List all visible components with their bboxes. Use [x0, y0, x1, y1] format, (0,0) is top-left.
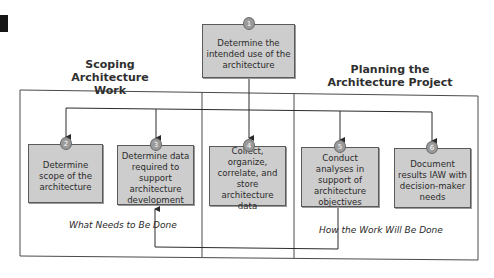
step-3-label: Determine data required to support archi… [121, 151, 190, 206]
how-the-work-will-be-done-label: How the Work Will Be Done [319, 225, 443, 235]
step-3-badge: 3 [150, 138, 162, 151]
step-5-box: Conduct analyses in support of architect… [301, 147, 379, 207]
step-2-badge: 2 [60, 137, 72, 150]
step-4-box: Collect, organize, correlate, and store … [209, 146, 286, 206]
section-title-planning: Planning the Architecture Project [320, 63, 460, 89]
step-5-label: Conduct analyses in support of architect… [305, 153, 375, 208]
step-2-label: Determine scope of the architecture [32, 160, 99, 193]
step-1-badge: 1 [243, 17, 255, 30]
section-title-line: Planning the [320, 63, 460, 76]
section-title-line: Scoping [55, 58, 165, 71]
step-1-box: Determine the intended use of the archit… [202, 24, 295, 78]
section-title-line: Architecture Project [320, 76, 460, 89]
section-title-scoping: Scoping Architecture Work [55, 58, 165, 97]
step-3-box: Determine data required to support archi… [117, 145, 194, 205]
step-2-box: Determine scope of the architecture [28, 144, 103, 203]
step-6-label: Document results IAW with decision-maker… [398, 159, 467, 203]
step-6-badge: 6 [426, 141, 438, 154]
step-1-label: Determine the intended use of the archit… [206, 38, 291, 71]
step-4-badge: 4 [243, 139, 255, 152]
section-title-line: Architecture Work [55, 71, 165, 97]
step-4-label: Collect, organize, correlate, and store … [213, 146, 282, 212]
step-5-badge: 5 [334, 140, 346, 153]
step-6-box: Document results IAW with decision-maker… [394, 148, 471, 208]
what-needs-to-be-done-label: What Needs to Be Done [69, 220, 177, 230]
